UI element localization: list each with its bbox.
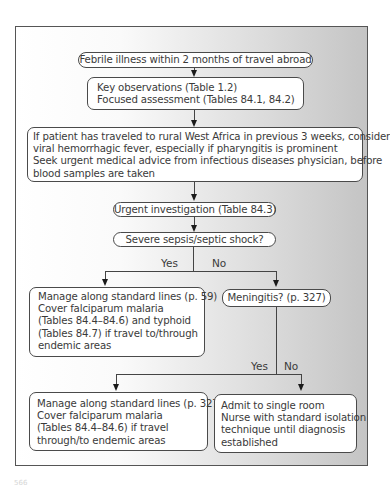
page-number: 566 <box>14 479 27 487</box>
warning-line-1: If patient has traveled to rural West Af… <box>33 131 362 143</box>
meningitis-yes-label: Yes <box>251 360 268 372</box>
warning-line-3: Seek urgent medical advice from infectio… <box>33 155 362 167</box>
arrow-down-icon <box>298 384 304 391</box>
assessment-node: Key observations (Table 1.2) Focused ass… <box>87 77 304 110</box>
meningitis-yes-line-2: Cover falciparum malaria <box>37 410 207 422</box>
meningitis-yes-line-4: through/to endemic areas <box>37 435 207 447</box>
sepsis-yes-line-2: Cover falciparum malaria <box>38 303 204 315</box>
connector-meningitis-horizontal <box>116 374 302 375</box>
meningitis-no-line-3: technique until diagnosis <box>221 424 356 436</box>
investigation-node: Urgent investigation (Table 84.3) <box>113 202 276 217</box>
sepsis-yes-line-3: (Tables 84.4–84.6) and typhoid <box>38 315 204 327</box>
sepsis-yes-line-1: Manage along standard lines (p. 59) <box>38 291 204 303</box>
meningitis-no-line-4: established <box>221 437 356 449</box>
arrow-down-icon <box>191 70 197 77</box>
arrow-down-icon <box>102 279 108 286</box>
meningitis-question: Meningitis? (p. 327) <box>227 292 325 303</box>
connector-sepsis-horizontal <box>105 271 277 272</box>
arrow-down-icon <box>191 194 197 201</box>
meningitis-decision-node: Meningitis? (p. 327) <box>222 289 331 307</box>
arrow-down-icon <box>273 280 279 287</box>
sepsis-yes-line-5: endemic areas <box>38 340 204 352</box>
assessment-line-2: Focused assessment (Tables 84.1, 84.2) <box>97 94 303 106</box>
sepsis-no-label: No <box>212 257 226 269</box>
arrow-down-icon <box>191 120 197 127</box>
meningitis-management-node: Manage along standard lines (p. 327) Cov… <box>29 392 208 451</box>
meningitis-yes-line-3: (Tables 84.4–84.6) if travel <box>37 422 207 434</box>
warning-line-4: blood samples are taken <box>33 168 362 180</box>
vhf-warning-node: If patient has traveled to rural West Af… <box>27 127 363 182</box>
sepsis-yes-line-4: (Tables 84.7) if travel to/through <box>38 328 204 340</box>
warning-line-2: viral hemorrhagic fever, especially if p… <box>33 143 362 155</box>
sepsis-decision-node: Severe sepsis/septic shock? <box>113 232 276 247</box>
meningitis-yes-line-1: Manage along standard lines (p. 327) <box>37 398 207 410</box>
connector-meningitis-branch <box>276 307 277 375</box>
investigation-text: Urgent investigation (Table 84.3) <box>114 204 276 215</box>
arrow-down-icon <box>113 384 119 391</box>
sepsis-yes-label: Yes <box>161 257 178 269</box>
assessment-line-1: Key observations (Table 1.2) <box>97 82 303 94</box>
sepsis-management-node: Manage along standard lines (p. 59) Cove… <box>29 287 205 357</box>
start-node-text: Febrile illness within 2 months of trave… <box>79 54 311 65</box>
meningitis-no-label: No <box>284 360 298 372</box>
start-node: Febrile illness within 2 months of trave… <box>78 52 313 68</box>
meningitis-no-line-1: Admit to single room <box>221 400 356 412</box>
meningitis-no-line-2: Nurse with standard isolation <box>221 412 356 424</box>
connector-sepsis-branch <box>193 247 194 272</box>
sepsis-question: Severe sepsis/septic shock? <box>126 234 264 245</box>
arrow-down-icon <box>191 225 197 232</box>
isolation-node: Admit to single room Nurse with standard… <box>214 394 357 453</box>
